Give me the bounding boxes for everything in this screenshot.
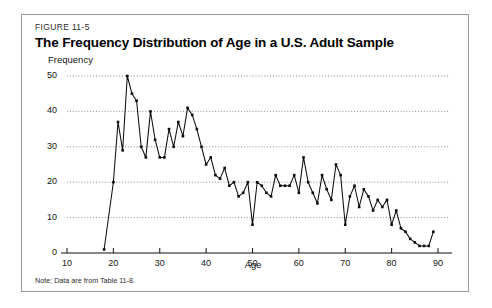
chart-plot-area: Frequency 01020304050 102030405060708090… — [22, 15, 470, 293]
x-axis-label: Age — [22, 259, 470, 270]
figure-card: FIGURE 11-5 The Frequency Distribution o… — [21, 14, 469, 292]
tick-marks — [67, 248, 438, 253]
data-series-line — [104, 76, 433, 249]
chart-svg — [22, 15, 470, 293]
figure-note: Note: Data are from Table 11-8. — [35, 276, 135, 285]
gridlines — [67, 76, 450, 218]
data-series-markers — [103, 75, 435, 251]
